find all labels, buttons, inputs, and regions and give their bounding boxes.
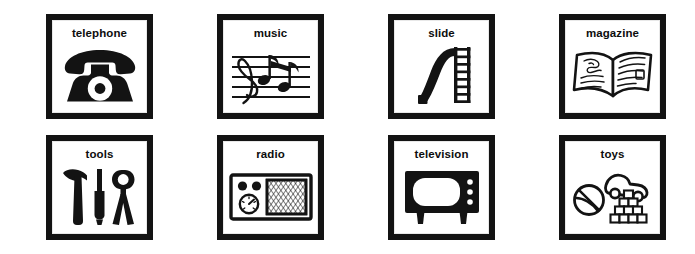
pictogram-card-radio[interactable]: radio [217, 135, 324, 240]
card-art [53, 161, 146, 234]
pictogram-card-slide[interactable]: slide [388, 14, 495, 119]
pictogram-card-telephone[interactable]: telephone [46, 14, 153, 119]
ball-car-blocks-icon [572, 167, 654, 227]
card-art [224, 161, 317, 234]
music-staff-notes-icon [230, 47, 312, 105]
card-art [395, 40, 488, 113]
card-inner: magazine [565, 20, 660, 113]
card-inner: telephone [52, 20, 147, 113]
card-inner: music [223, 20, 318, 113]
open-magazine-icon [571, 48, 655, 104]
television-set-icon [402, 169, 482, 225]
card-art [53, 40, 146, 113]
pictogram-card-music[interactable]: music [217, 14, 324, 119]
card-art [566, 161, 659, 234]
pictogram-grid: telephone music [46, 14, 666, 240]
card-label: telephone [72, 28, 127, 40]
table-radio-icon [229, 173, 313, 221]
card-inner: slide [394, 20, 489, 113]
pictogram-card-tools[interactable]: tools [46, 135, 153, 240]
card-art [395, 161, 488, 234]
card-inner: tools [52, 141, 147, 234]
card-art [224, 40, 317, 113]
card-label: magazine [586, 28, 639, 40]
card-label: radio [256, 149, 285, 161]
card-label: television [414, 149, 468, 161]
card-art [566, 40, 659, 113]
card-label: music [254, 28, 288, 40]
pictogram-sheet: telephone music [0, 0, 695, 254]
card-label: slide [428, 28, 455, 40]
pictogram-card-toys[interactable]: toys [559, 135, 666, 240]
card-inner: toys [565, 141, 660, 234]
pictogram-card-magazine[interactable]: magazine [559, 14, 666, 119]
pictogram-card-television[interactable]: television [388, 135, 495, 240]
card-label: tools [86, 149, 114, 161]
hammer-screwdriver-pliers-icon [60, 167, 140, 227]
card-label: toys [600, 149, 624, 161]
rotary-telephone-icon [61, 48, 139, 104]
card-inner: television [394, 141, 489, 234]
playground-slide-icon [411, 45, 473, 107]
card-inner: radio [223, 141, 318, 234]
